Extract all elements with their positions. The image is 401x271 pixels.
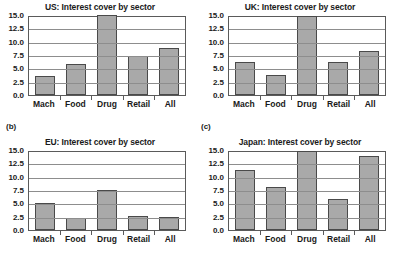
plot-wrapper: 0.02.55.07.510.012.515.0 MachFoodDrugRet… — [0, 151, 200, 259]
y-axis-tick-labels: 0.02.55.07.510.012.515.0 — [0, 16, 26, 96]
bar — [235, 62, 255, 95]
y-axis-tick-label: 0.0 — [13, 92, 24, 100]
chart-title: Japan: Interest cover by sector — [200, 137, 400, 147]
figure-sheet: US: Interest cover by sector 0.02.55.07.… — [0, 0, 401, 271]
gridline — [29, 69, 185, 70]
gridline — [229, 178, 385, 179]
bar — [66, 64, 86, 95]
x-axis-tick-label: Food — [260, 234, 292, 244]
gridline — [229, 69, 385, 70]
chart-title: UK: Interest cover by sector — [200, 2, 400, 12]
y-axis-tick-label: 15.0 — [8, 147, 24, 155]
y-axis-tick-label: 2.5 — [13, 214, 24, 222]
y-axis-tick-label: 0.0 — [213, 92, 224, 100]
y-axis-tick-label: 12.5 — [8, 160, 24, 168]
chart-panel-uk: UK: Interest cover by sector 0.02.55.07.… — [200, 0, 400, 135]
y-axis-tick-label: 15.0 — [208, 147, 224, 155]
gridline — [229, 218, 385, 219]
bar — [328, 62, 348, 95]
bar — [328, 199, 348, 230]
panel-tag-b: (b) — [6, 122, 16, 131]
bar — [35, 76, 55, 95]
y-axis-tick-label: 5.0 — [213, 65, 224, 73]
gridline — [229, 191, 385, 192]
bar — [235, 170, 255, 230]
y-axis-tick-label: 15.0 — [8, 12, 24, 20]
gridline — [229, 29, 385, 30]
y-axis-tick-labels: 0.02.55.07.510.012.515.0 — [200, 16, 226, 96]
gridline — [29, 218, 185, 219]
chart-panel-us: US: Interest cover by sector 0.02.55.07.… — [0, 0, 200, 135]
panel-tag-c: (c) — [201, 122, 211, 131]
y-axis-tick-label: 2.5 — [213, 214, 224, 222]
y-axis-tick-label: 7.5 — [13, 187, 24, 195]
y-axis-tick-label: 5.0 — [213, 200, 224, 208]
x-axis-tick-label: Retail — [323, 99, 355, 109]
y-axis-tick-labels: 0.02.55.07.510.012.515.0 — [200, 151, 226, 231]
y-axis-tick-label: 0.0 — [13, 227, 24, 235]
bar — [35, 203, 55, 230]
bar — [266, 187, 286, 230]
x-axis-tick-label: Drug — [291, 99, 323, 109]
x-axis-tick-label: Mach — [228, 99, 260, 109]
x-axis-tick-label: Food — [260, 99, 292, 109]
x-axis-tick-labels: MachFoodDrugRetailAll — [28, 234, 186, 244]
x-axis-tick-label: Food — [60, 234, 92, 244]
x-axis-tick-label: Retail — [123, 234, 155, 244]
x-axis-tick-label: Mach — [28, 99, 60, 109]
bar — [97, 190, 117, 230]
chart-title: EU: Interest cover by sector — [0, 137, 200, 147]
plot-wrapper: 0.02.55.07.510.012.515.0 MachFoodDrugRet… — [0, 16, 200, 124]
gridline — [29, 83, 185, 84]
y-axis-tick-label: 10.0 — [8, 39, 24, 47]
x-axis-tick-label: Drug — [291, 234, 323, 244]
y-axis-tick-label: 15.0 — [208, 12, 224, 20]
x-axis-tick-label: Mach — [228, 234, 260, 244]
gridline — [229, 83, 385, 84]
bar — [66, 218, 86, 230]
plot-wrapper: 0.02.55.07.510.012.515.0 MachFoodDrugRet… — [200, 151, 400, 259]
x-axis-tick-label: Drug — [91, 234, 123, 244]
x-axis-tick-labels: MachFoodDrugRetailAll — [228, 234, 386, 244]
gridline — [229, 204, 385, 205]
gridline — [229, 56, 385, 57]
bar — [266, 75, 286, 95]
gridline — [29, 164, 185, 165]
x-axis-tick-label: All — [154, 99, 186, 109]
bar — [159, 217, 179, 230]
y-axis-tick-label: 12.5 — [208, 160, 224, 168]
y-axis-tick-label: 0.0 — [213, 227, 224, 235]
x-axis-tick-label: Retail — [123, 99, 155, 109]
gridline — [29, 178, 185, 179]
y-axis-tick-label: 12.5 — [8, 25, 24, 33]
y-axis-tick-label: 10.0 — [8, 174, 24, 182]
y-axis-tick-label: 7.5 — [213, 52, 224, 60]
plot-area — [28, 151, 186, 231]
gridline — [29, 191, 185, 192]
x-axis-tick-label: Drug — [91, 99, 123, 109]
y-axis-tick-label: 12.5 — [208, 25, 224, 33]
gridline — [29, 204, 185, 205]
gridline — [29, 56, 185, 57]
y-axis-tick-label: 7.5 — [13, 52, 24, 60]
plot-wrapper: 0.02.55.07.510.012.515.0 MachFoodDrugRet… — [200, 16, 400, 124]
gridline — [29, 43, 185, 44]
x-axis-tick-label: All — [154, 234, 186, 244]
y-axis-tick-label: 5.0 — [13, 200, 24, 208]
gridline — [229, 43, 385, 44]
y-axis-tick-labels: 0.02.55.07.510.012.515.0 — [0, 151, 26, 231]
bar — [128, 56, 148, 95]
x-axis-tick-label: Mach — [28, 234, 60, 244]
plot-area — [228, 16, 386, 96]
y-axis-tick-label: 2.5 — [13, 79, 24, 87]
gridline — [229, 164, 385, 165]
plot-area — [28, 16, 186, 96]
bar — [359, 156, 379, 230]
y-axis-tick-label: 10.0 — [208, 174, 224, 182]
bar — [359, 51, 379, 95]
x-axis-tick-label: Retail — [323, 234, 355, 244]
y-axis-tick-label: 10.0 — [208, 39, 224, 47]
chart-panel-japan: Japan: Interest cover by sector 0.02.55.… — [200, 135, 400, 270]
x-axis-tick-label: All — [354, 99, 386, 109]
y-axis-tick-label: 2.5 — [213, 79, 224, 87]
